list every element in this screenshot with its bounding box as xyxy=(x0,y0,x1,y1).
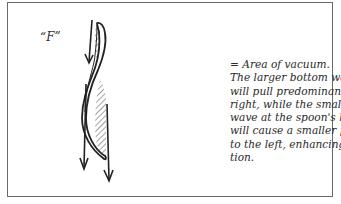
caption-line: The larger bottom wave xyxy=(230,71,338,84)
caption-line: to the left, enhancing ac- xyxy=(230,138,338,151)
vacuum-area-lower-icon xyxy=(95,80,106,156)
arrow-down-icon xyxy=(85,20,93,63)
caption-line: wave at the spoon's head xyxy=(230,111,338,124)
caption-line: tion. xyxy=(230,151,338,164)
caption-line: will cause a smaller pull xyxy=(230,124,338,137)
caption-line: right, while the smaller xyxy=(230,98,338,111)
caption-line: = Area of vacuum. xyxy=(230,58,338,71)
figure-caption: = Area of vacuum. The larger bottom wave… xyxy=(230,58,338,164)
caption-line: will pull predominantly xyxy=(230,85,338,98)
